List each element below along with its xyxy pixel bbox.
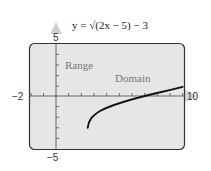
domain-label: Domain	[115, 72, 151, 84]
equation-label: y = √(2x − 5) − 3	[72, 19, 148, 32]
range-label: Range	[65, 59, 93, 71]
x-max-label: 10	[187, 91, 199, 102]
x-min-label: −2	[12, 91, 24, 102]
graph: y = √(2x − 5) − 3 Range Domain −2 10 5 −…	[0, 0, 211, 171]
y-min-label: −5	[47, 152, 59, 163]
y-max-label: 5	[53, 32, 59, 43]
